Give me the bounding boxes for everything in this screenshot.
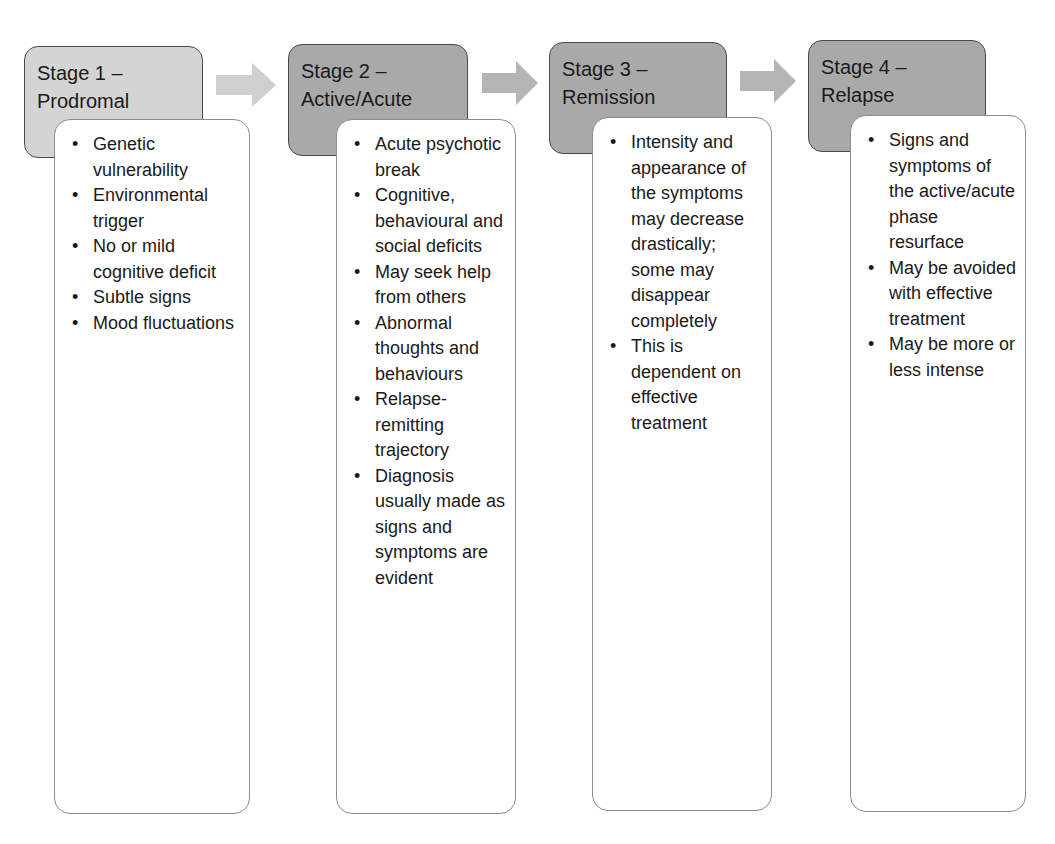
bullet-item: Acute psychotic break: [353, 132, 507, 183]
arrow-right-icon: [740, 58, 798, 104]
stage-2-title-line2: Active/Acute: [301, 85, 467, 113]
bullet-item: Abnormal thoughts and behaviours: [353, 311, 507, 388]
arrow-right-icon: [216, 62, 278, 108]
stage-2-body: Acute psychotic break Cognitive, behavio…: [336, 119, 516, 814]
stage-4-title-line2: Relapse: [821, 81, 985, 109]
bullet-item: May seek help from others: [353, 260, 507, 311]
bullet-item: Relapse-remitting trajectory: [353, 387, 507, 464]
stage-1-title-line2: Prodromal: [37, 87, 202, 115]
bullet-item: Intensity and appearance of the symptoms…: [609, 130, 763, 334]
bullet-item: Subtle signs: [71, 285, 241, 311]
stage-1-body: Genetic vulnerability Environmental trig…: [54, 119, 250, 814]
stage-1-bullet-list: Genetic vulnerability Environmental trig…: [71, 132, 241, 336]
stage-3-body: Intensity and appearance of the symptoms…: [592, 117, 772, 811]
bullet-item: May be more or less intense: [867, 332, 1017, 383]
bullet-item: Diagnosis usually made as signs and symp…: [353, 464, 507, 592]
stage-4-bullet-list: Signs and symptoms of the active/acute p…: [867, 128, 1017, 383]
bullet-item: No or mild cognitive deficit: [71, 234, 241, 285]
stage-3-bullet-list: Intensity and appearance of the symptoms…: [609, 130, 763, 436]
stage-2-title-line1: Stage 2 –: [301, 57, 467, 85]
stage-3-title-line2: Remission: [562, 83, 726, 111]
bullet-item: This is dependent on effective treatment: [609, 334, 763, 436]
stage-4-title-line1: Stage 4 –: [821, 53, 985, 81]
stage-4-body: Signs and symptoms of the active/acute p…: [850, 115, 1026, 812]
arrow-right-icon: [482, 60, 540, 106]
bullet-item: Cognitive, behavioural and social defici…: [353, 183, 507, 260]
bullet-item: Genetic vulnerability: [71, 132, 241, 183]
bullet-item: May be avoided with effective treatment: [867, 256, 1017, 333]
stage-2-bullet-list: Acute psychotic break Cognitive, behavio…: [353, 132, 507, 591]
bullet-item: Environmental trigger: [71, 183, 241, 234]
bullet-item: Mood fluctuations: [71, 311, 241, 337]
bullet-item: Signs and symptoms of the active/acute p…: [867, 128, 1017, 256]
stage-1-title-line1: Stage 1 –: [37, 59, 202, 87]
stage-3-title-line1: Stage 3 –: [562, 55, 726, 83]
